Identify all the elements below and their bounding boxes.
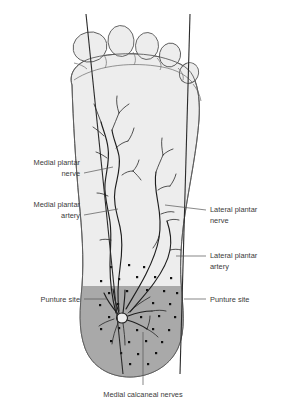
- label-puncture-site-right: Punture site: [210, 295, 249, 304]
- label-puncture-site-left: Punture site: [41, 295, 80, 304]
- label-lateral-plantar-nerve-line1: Lateral plantar: [210, 205, 258, 214]
- figure-container: Medial plantar nerve Medial plantar arte…: [0, 0, 285, 411]
- label-medial-plantar-artery-line1: Medial plantar: [34, 200, 81, 209]
- plantar-foot-diagram: Medial plantar nerve Medial plantar arte…: [0, 0, 285, 411]
- label-medial-plantar-nerve-line1: Medial plantar: [34, 158, 81, 167]
- puncture-zone-lateral: [130, 286, 183, 377]
- label-medial-calcaneal-nerves: Medial calcaneal nerves: [103, 390, 183, 399]
- label-lateral-plantar-artery-line2: artery: [210, 262, 229, 271]
- toe-second: [107, 24, 136, 57]
- label-lateral-plantar-nerve-line2: nerve: [210, 216, 229, 225]
- puncture-zone-medial: [80, 286, 130, 377]
- label-medial-plantar-artery-line2: artery: [61, 211, 80, 220]
- label-lateral-plantar-artery-line1: Lateral plantar: [210, 251, 258, 260]
- foot-anatomy-group: [70, 14, 202, 377]
- label-medial-plantar-nerve-line2: nerve: [62, 169, 81, 178]
